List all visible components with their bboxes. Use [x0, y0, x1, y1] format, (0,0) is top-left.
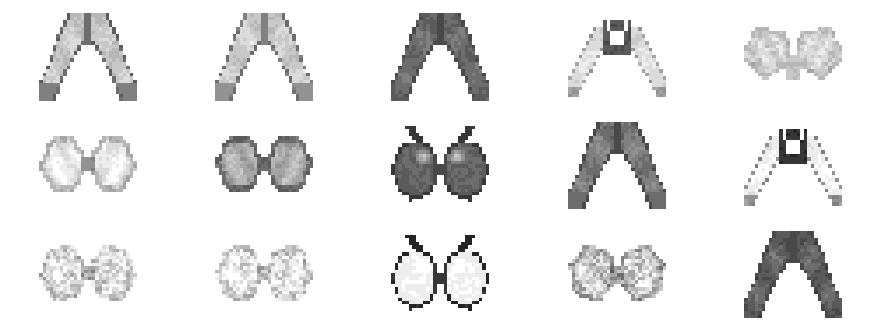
sample-cell: two dark grey apples with stems, specula…	[352, 109, 528, 218]
sample-cell: two white apples with black outlines and…	[352, 218, 528, 327]
sample-image-r2c2	[215, 115, 313, 213]
sample-image-r1c5	[744, 6, 842, 104]
sample-cell: grainy mid-light bowtie with heavy speck…	[529, 218, 705, 327]
sample-cell: dark grey moth, broad wings in inverted …	[352, 0, 528, 109]
sample-image-r3c5	[744, 224, 842, 322]
sample-image-r3c3	[391, 224, 489, 322]
sample-cell: dark grey moth wings angled down, invert…	[529, 109, 705, 218]
sample-image-r3c4	[568, 224, 666, 322]
sample-image-r2c5	[744, 115, 842, 213]
sample-image-r3c1	[39, 224, 137, 322]
sample-cell: mid grey bowtie wings with lighter highl…	[176, 109, 352, 218]
sample-image-r2c3	[391, 115, 489, 213]
sample-image-r3c2	[215, 224, 313, 322]
sample-image-r1c1	[39, 6, 137, 104]
sample-image-r1c3	[391, 6, 489, 104]
sample-cell: dark grey moth wings angled downward, so…	[705, 218, 881, 327]
sample-cell: very pale bowtie-shaped pair of rounded …	[0, 109, 176, 218]
sample-image-r2c1	[39, 115, 137, 213]
sample-image-r2c4	[568, 115, 666, 213]
sample-cell: pale open-winged moth, light grey wings …	[0, 0, 176, 109]
sample-cell: white wings with very dark body block an…	[705, 109, 881, 218]
sample-image-r1c2	[215, 6, 313, 104]
sample-grid: pale open-winged moth, light grey wings …	[0, 0, 881, 327]
sample-cell: faint blurry pair of rounded lobes, very…	[705, 0, 881, 109]
sample-cell: faint speckled bowtie, slightly lighter …	[176, 218, 352, 327]
sample-cell: pale moth, wings angled downward, light …	[176, 0, 352, 109]
sample-image-r1c4	[568, 6, 666, 104]
sample-cell: pale wings with dark central body block …	[529, 0, 705, 109]
sample-cell: faint speckled bowtie, very light grey n…	[0, 218, 176, 327]
